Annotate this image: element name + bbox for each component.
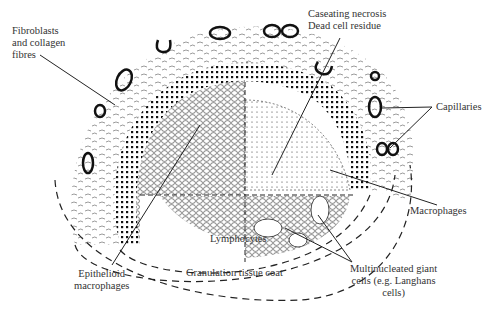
- label-macrophages: Macrophages: [410, 205, 467, 217]
- label-lymphocytes: Lymphocytes: [210, 233, 267, 245]
- giant-cell: [311, 196, 329, 224]
- label-fibroblasts: Fibroblasts and collagen fibres: [12, 25, 65, 61]
- label-capillaries: Capillaries: [436, 101, 482, 113]
- label-granulation: Granulation tissue coat: [186, 267, 283, 279]
- label-caseating: Caseating necrosis Dead cell residue: [308, 8, 386, 32]
- label-epithelioid: Epithelioid macrophages: [74, 268, 129, 292]
- label-giant-cells: Multinucleated giant cells (e.g. Langhan…: [350, 263, 437, 299]
- lymphocyte-zone: [160, 196, 350, 258]
